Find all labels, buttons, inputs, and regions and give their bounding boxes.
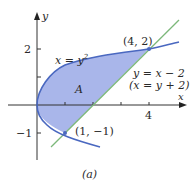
y-tick-label-2: 2 [24, 43, 31, 56]
point-label-4-2: (4, 2) [123, 35, 153, 48]
y-axis-label: y [41, 10, 49, 23]
y-axis-arrow-icon [34, 12, 40, 20]
point-1-neg1 [63, 131, 67, 135]
point-label-1-neg1: (1, −1) [75, 125, 114, 138]
y-tick-label-neg1: −1 [16, 127, 32, 140]
region-a-label: A [74, 83, 83, 96]
x-axis-label: x [178, 91, 184, 102]
x-axis-arrow-icon [179, 102, 187, 108]
x-tick-label-4: 4 [145, 109, 152, 122]
figure-caption: (a) [82, 168, 97, 181]
parabola-label: x = y2 [55, 53, 89, 67]
region-between-curves-diagram: y x 2 −1 4 x = y2 y = x − 2 (x = y + 2) … [0, 0, 195, 189]
parabola-label-exponent: 2 [83, 53, 89, 61]
line-label-alt: (x = y + 2) [129, 79, 189, 92]
